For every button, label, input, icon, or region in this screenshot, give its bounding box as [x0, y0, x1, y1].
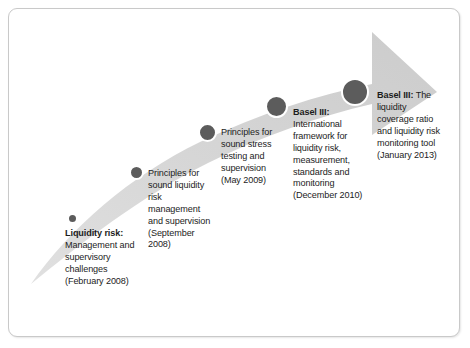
milestone-dot-3 [198, 123, 217, 142]
milestone-body-5: The liquidity coverage ratio and liquidi… [377, 90, 440, 160]
milestone-lead-4: Basel III: [293, 107, 329, 117]
milestone-dot-5 [341, 78, 369, 106]
milestone-body-4: International framework for liquidity ri… [293, 119, 362, 200]
milestone-body-1: Management and supervisory challenges (F… [65, 240, 134, 286]
milestone-body-2: Principles for sound liquidity risk mana… [148, 168, 210, 249]
milestone-label-4: Basel III: International framework for l… [293, 107, 363, 202]
milestone-dot-1 [67, 213, 78, 224]
milestone-label-5: Basel III: The liquidity coverage ratio … [377, 90, 443, 161]
milestone-label-2: Principles for sound liquidity risk mana… [148, 168, 214, 251]
milestone-lead-1: Liquidity risk: [65, 228, 123, 238]
milestone-body-3: Principles for sound stress testing and … [221, 127, 272, 185]
milestone-dot-2 [129, 165, 144, 180]
timeline-diagram: Liquidity risk: Management and superviso… [0, 0, 470, 348]
milestone-label-3: Principles for sound stress testing and … [221, 127, 287, 187]
milestone-dot-4 [265, 95, 288, 118]
milestone-lead-5: Basel III: [377, 90, 413, 100]
milestone-label-1: Liquidity risk: Management and superviso… [65, 228, 135, 288]
